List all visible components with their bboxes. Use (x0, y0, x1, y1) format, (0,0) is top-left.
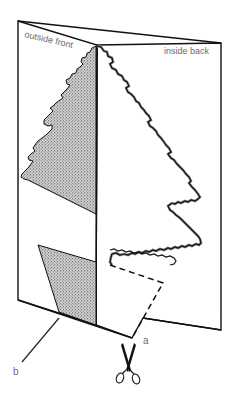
label-b-pointer (22, 318, 59, 362)
label-inside-back: inside back (164, 46, 210, 56)
label-a: a (143, 335, 149, 346)
scissors-icon (115, 343, 141, 385)
card-back-panel (96, 43, 221, 338)
folded-card-diagram: outside front inside back a b (0, 0, 232, 402)
label-b: b (13, 366, 19, 377)
